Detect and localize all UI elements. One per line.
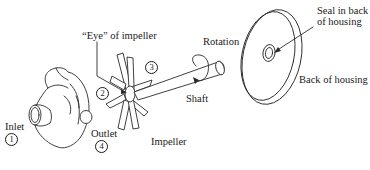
station-3-marker: 3: [145, 61, 158, 74]
seal-label: Seal in back of housing: [317, 5, 369, 27]
station-4-marker: 4: [95, 140, 108, 153]
back-housing-shape: [233, 4, 310, 110]
rotation-label: Rotation: [203, 36, 239, 47]
station-2-marker: 2: [96, 87, 109, 100]
eye-of-impeller-label: “Eye” of impeller: [82, 30, 157, 41]
back-of-housing-label: Back of housing: [299, 74, 368, 85]
front-housing-shape: [29, 68, 92, 148]
outlet-label: Outlet: [91, 128, 117, 139]
shaft-label: Shaft: [186, 93, 208, 104]
station-1-marker: 1: [5, 133, 18, 146]
impeller-label: Impeller: [151, 136, 187, 147]
inlet-label: Inlet: [5, 121, 24, 132]
